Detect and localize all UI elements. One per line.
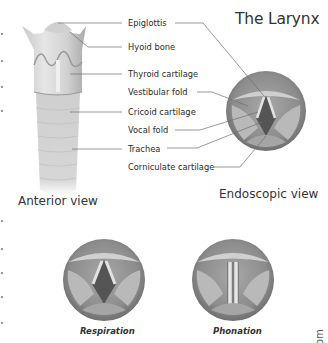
caption-endoscopic-view: Endoscopic view: [219, 187, 318, 201]
label-vocal-fold: Vocal fold: [128, 125, 168, 135]
endoscopic-view-drawing: [226, 71, 306, 151]
label-thyroid-cartilage: Thyroid cartilage: [128, 69, 198, 79]
caption-anterior-view: Anterior view: [18, 194, 98, 208]
phonation-drawing: [192, 239, 274, 321]
caption-phonation: Phonation: [213, 326, 262, 336]
respiration-drawing: [63, 239, 145, 321]
caption-respiration: Respiration: [80, 326, 135, 336]
label-vestibular-fold: Vestibular fold: [128, 87, 188, 97]
label-trachea: Trachea: [128, 144, 160, 154]
diagram-title: The Larynx: [235, 10, 319, 28]
label-cricoid-cartilage: Cricoid cartilage: [128, 107, 196, 117]
left-edge-marks: [1, 0, 4, 343]
label-corniculate-cartilage: Corniculate cartilage: [128, 162, 214, 172]
label-hyoid-bone: Hyoid bone: [128, 42, 175, 52]
label-epiglottis: Epiglottis: [128, 18, 167, 28]
anterior-larynx-drawing: [22, 22, 86, 195]
